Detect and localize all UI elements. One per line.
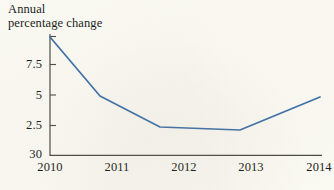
x-tick-label-2013: 2013: [223, 161, 279, 173]
y-tick-label-5: 5: [6, 89, 42, 101]
x-tick-label-2011: 2011: [89, 161, 145, 173]
y-tick-label-0: 30: [6, 148, 42, 160]
x-tick-label-2014: 2014: [291, 161, 334, 173]
y-tick-label-7-5: 7.5: [6, 58, 42, 70]
x-tick-label-2012: 2012: [156, 161, 212, 173]
y-axis-ticks: [50, 37, 56, 126]
y-tick-label-2-5: 2.5: [6, 119, 42, 131]
line-chart: Annual percentage change 7.5 5 2.5 30 20…: [0, 0, 334, 190]
data-series-line: [50, 37, 320, 130]
x-tick-label-2010: 2010: [22, 161, 78, 173]
